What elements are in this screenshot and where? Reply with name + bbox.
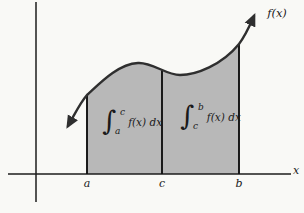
integral-sign: ∫ [180,104,194,128]
tick-label-c: c [159,178,165,189]
integrand-text: f(x) dx [207,111,241,123]
x-axis-label: x [293,165,299,176]
integral-upper-limit: b [198,102,204,112]
tick-label-b: b [235,178,242,189]
integral-upper-limit: c [120,107,125,117]
integral-lower-limit: a [115,126,125,136]
integral-sign: ∫ [102,109,116,133]
tick-label-a: a [84,178,91,189]
integral-diagram: f(x) x a c b ∫ c a f(x) dx ∫ b c f(x) dx [0,0,304,213]
integral-limits: b c [194,102,204,131]
curve-label: f(x) [267,8,287,20]
integral-label-c-to-b: ∫ b c f(x) dx [180,102,241,131]
integrand-text: f(x) dx [128,116,162,128]
integral-lower-limit: c [193,121,204,131]
integral-label-a-to-c: ∫ c a f(x) dx [102,107,162,136]
integral-limits: c a [116,107,125,136]
